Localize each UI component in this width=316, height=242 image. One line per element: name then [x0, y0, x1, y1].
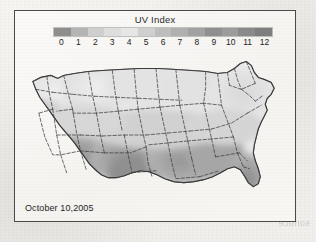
colorbar-swatch-6	[155, 28, 172, 36]
colorbar-swatch-5	[138, 28, 155, 36]
colorbar-swatch-10	[222, 28, 239, 36]
date-caption: October 10,2005	[25, 203, 94, 213]
tick-label-1: 1	[76, 36, 81, 49]
colorbar-swatch-7	[171, 28, 188, 36]
tick-label-6: 6	[161, 36, 166, 49]
tick-label-9: 9	[211, 36, 216, 49]
colorbar-swatch-8	[188, 28, 205, 36]
tick-label-11: 11	[243, 36, 252, 49]
colorbar-swatch-11	[238, 28, 255, 36]
tick-label-4: 4	[127, 36, 132, 49]
tick-label-2: 2	[93, 36, 98, 49]
colorbar-swatch-9	[205, 28, 222, 36]
colorbar-swatch-1	[71, 28, 88, 36]
colorbar-swatch-12	[255, 28, 272, 36]
us-map	[17, 51, 293, 219]
legend-title: UV Index	[15, 14, 295, 26]
tick-label-3: 3	[110, 36, 115, 49]
legend: UV Index 0123456789101112	[15, 13, 295, 53]
colorbar-swatch-0	[54, 28, 71, 36]
tick-label-0: 0	[59, 36, 64, 49]
colorbar-swatch-2	[88, 28, 105, 36]
tick-label-8: 8	[194, 36, 199, 49]
tick-label-7: 7	[178, 36, 183, 49]
colorbar-swatch-3	[104, 28, 121, 36]
colorbar-swatch-4	[121, 28, 138, 36]
tick-label-10: 10	[226, 36, 235, 49]
tick-label-12: 12	[260, 36, 269, 49]
uv-index-figure: UV Index 0123456789101112	[14, 10, 296, 222]
tick-label-5: 5	[144, 36, 149, 49]
colorbar-tick-labels: 0123456789101112	[53, 36, 273, 49]
us-map-svg	[17, 51, 293, 219]
